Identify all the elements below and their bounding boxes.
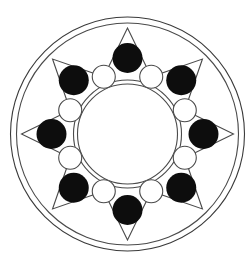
core-ring-outer xyxy=(74,80,182,188)
light-dot xyxy=(140,180,163,203)
artwork-canvas xyxy=(0,0,252,261)
dark-dot xyxy=(59,173,89,203)
dark-dot xyxy=(166,173,196,203)
dark-dot xyxy=(113,195,143,225)
dark-dot xyxy=(37,119,67,149)
light-dot xyxy=(173,99,196,122)
dark-dot xyxy=(113,43,143,73)
mandala-figure xyxy=(0,0,252,261)
light-dot xyxy=(59,99,82,122)
light-dot xyxy=(92,180,115,203)
dark-dot xyxy=(189,119,219,149)
light-dot xyxy=(92,65,115,88)
light-dot xyxy=(173,146,196,169)
dark-dot xyxy=(59,65,89,95)
light-dot xyxy=(140,65,163,88)
light-dot xyxy=(59,146,82,169)
dark-dot xyxy=(166,65,196,95)
